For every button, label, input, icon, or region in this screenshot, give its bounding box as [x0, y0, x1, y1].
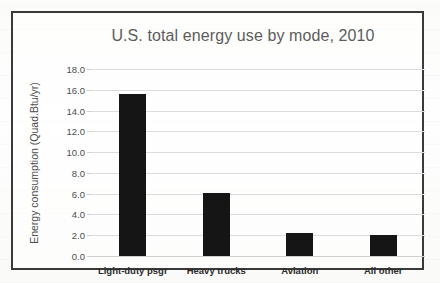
- y-tick-label: 10.0: [67, 147, 86, 158]
- bar: [119, 94, 146, 256]
- gridline: [91, 90, 425, 91]
- chart-title: U.S. total energy use by mode, 2010: [73, 27, 413, 45]
- chart-frame: U.S. total energy use by mode, 2010 Ener…: [11, 11, 424, 270]
- y-tick-label: 12.0: [67, 126, 86, 137]
- y-tick-label: 14.0: [67, 105, 86, 116]
- y-tick-label: 0.0: [72, 251, 85, 262]
- y-tick-mark: [87, 194, 91, 195]
- x-tick-label: Light-duty psgr: [98, 265, 168, 276]
- y-tick-mark: [87, 214, 91, 215]
- y-tick-label: 16.0: [67, 84, 86, 95]
- gridline: [91, 69, 425, 70]
- y-tick-label: 18.0: [67, 64, 86, 75]
- gridline: [91, 256, 425, 257]
- y-tick-label: 2.0: [72, 230, 85, 241]
- y-axis-title-label: Energy consumption (Quad.Btu/yr): [28, 82, 40, 244]
- y-axis-title: Energy consumption (Quad.Btu/yr): [27, 69, 41, 256]
- x-tick-label: All other: [364, 265, 403, 276]
- plot-area: 0.02.04.06.08.010.012.014.016.018.0 Ligh…: [91, 69, 425, 256]
- x-tick-label: Aviation: [281, 265, 318, 276]
- y-tick-mark: [87, 131, 91, 132]
- bar: [203, 193, 230, 256]
- y-tick-mark: [87, 256, 91, 257]
- y-tick-mark: [87, 173, 91, 174]
- bar: [370, 235, 397, 256]
- x-tick-label: Heavy trucks: [187, 265, 246, 276]
- y-tick-mark: [87, 111, 91, 112]
- y-tick-label: 4.0: [72, 209, 85, 220]
- bar: [286, 233, 313, 256]
- y-tick-label: 6.0: [72, 188, 85, 199]
- y-tick-label: 8.0: [72, 167, 85, 178]
- y-tick-mark: [87, 69, 91, 70]
- y-tick-mark: [87, 90, 91, 91]
- y-tick-mark: [87, 152, 91, 153]
- y-tick-mark: [87, 235, 91, 236]
